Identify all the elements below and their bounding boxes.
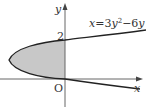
origin-label: O	[54, 82, 63, 95]
diagram-canvas: x=3y2−6y 2 O x y	[0, 0, 146, 107]
y-intercept-label: 2	[57, 30, 64, 43]
x-axis-arrow-icon	[136, 77, 143, 82]
shaded-region	[9, 40, 65, 79]
x-axis-label: x	[134, 82, 141, 95]
y-axis-label: y	[54, 3, 62, 16]
curve-label: x=3y2−6y	[89, 17, 145, 30]
y-axis-arrow-icon	[63, 3, 68, 10]
